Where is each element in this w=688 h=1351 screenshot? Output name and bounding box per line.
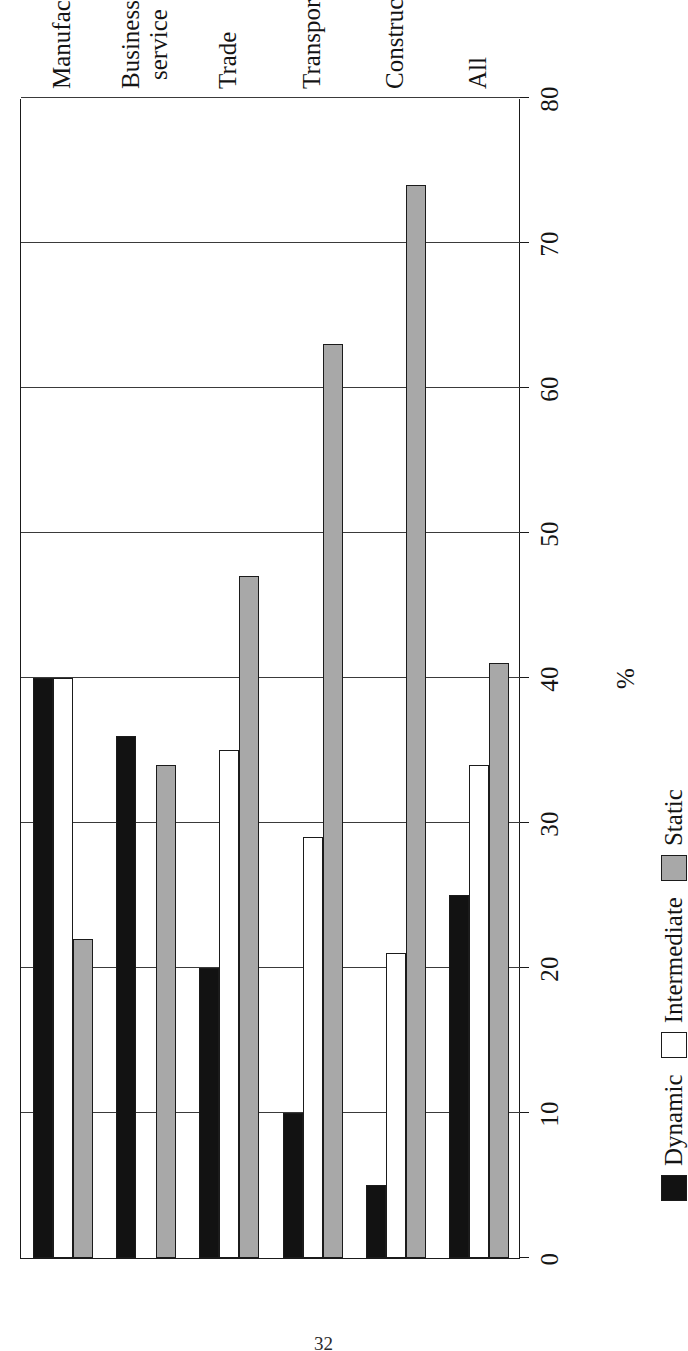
- tick-label: 70: [536, 231, 564, 257]
- bar-static-business-service: [156, 765, 176, 1258]
- tick-label: 30: [536, 811, 564, 837]
- gridline: [21, 97, 520, 98]
- bar-intermediate-transport: [303, 838, 323, 1259]
- category-label: Trade: [214, 32, 242, 89]
- gridline: [21, 822, 520, 823]
- plot-frame: [20, 99, 520, 1259]
- legend-swatch-static: [661, 855, 687, 881]
- tick-label: 60: [536, 376, 564, 402]
- gridline: [21, 242, 520, 243]
- axis-tick: [520, 97, 529, 98]
- legend-swatch-intermediate: [661, 1032, 687, 1058]
- gridline: [21, 967, 520, 968]
- chart-legend: DynamicIntermediateStatic: [660, 789, 688, 1201]
- axis-tick: [520, 387, 529, 388]
- axis-tick: [520, 1112, 529, 1113]
- bar-dynamic-construction: [366, 1186, 386, 1259]
- bar-static-construction: [406, 185, 426, 1258]
- category-label: All: [464, 57, 492, 89]
- tick-label: 50: [536, 521, 564, 547]
- category-label: Manufacturing: [48, 0, 76, 89]
- gridline: [21, 532, 520, 533]
- tick-label: 80: [536, 86, 564, 112]
- gridline: [21, 1112, 520, 1113]
- tick-label: 20: [536, 956, 564, 982]
- bar-dynamic-transport: [283, 1113, 303, 1258]
- bar-dynamic-manufacturing: [33, 678, 53, 1258]
- bar-intermediate-all: [469, 765, 489, 1258]
- gridline: [21, 387, 520, 388]
- axis-tick: [520, 822, 529, 823]
- axis-tick: [520, 532, 529, 533]
- gridline: [21, 677, 520, 678]
- legend-label: Dynamic: [660, 1074, 688, 1166]
- legend-label: Static: [660, 789, 688, 846]
- legend-item-intermediate: Intermediate: [660, 897, 688, 1058]
- category-label: Construction: [381, 0, 409, 89]
- legend-item-static: Static: [660, 789, 688, 881]
- bar-intermediate-trade: [219, 751, 239, 1259]
- value-axis-title: %: [612, 668, 640, 689]
- axis-tick: [520, 967, 529, 968]
- category-label: Transport: [298, 0, 326, 89]
- page-number: 32: [0, 1333, 647, 1351]
- legend-item-dynamic: Dynamic: [660, 1074, 688, 1201]
- bar-static-transport: [323, 345, 343, 1259]
- legend-label: Intermediate: [660, 897, 688, 1023]
- axis-tick: [520, 242, 529, 243]
- legend-swatch-dynamic: [661, 1175, 687, 1201]
- bar-dynamic-business-service: [116, 736, 136, 1258]
- category-label: Business service: [117, 0, 173, 89]
- bar-dynamic-trade: [199, 968, 219, 1258]
- tick-label: 0: [536, 1253, 564, 1266]
- bar-static-trade: [239, 577, 259, 1259]
- axis-tick: [520, 677, 529, 678]
- bar-intermediate-construction: [386, 954, 406, 1259]
- axis-tick: [520, 1257, 529, 1258]
- plot-area: 01020304050607080 ManufacturingBusiness …: [20, 99, 520, 1259]
- bar-dynamic-all: [449, 896, 469, 1259]
- category-axis-line: [519, 99, 520, 1258]
- tick-label: 40: [536, 666, 564, 692]
- bar-static-manufacturing: [73, 939, 93, 1258]
- bar-intermediate-manufacturing: [53, 678, 73, 1258]
- tick-label: 10: [536, 1101, 564, 1127]
- bar-static-all: [489, 664, 509, 1259]
